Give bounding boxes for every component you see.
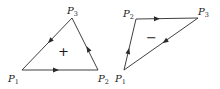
vertex-label-p2: P2	[97, 73, 109, 86]
edge-p2-p3	[136, 18, 198, 19]
arrow-icon	[154, 16, 160, 21]
edge-p2-p3	[72, 18, 98, 70]
arrow-icon	[53, 68, 59, 73]
sign-minus: −	[146, 30, 157, 45]
orientation-diagram: + P1 P2 P3 − P1 P2 P3	[0, 0, 220, 89]
arrow-icon	[85, 45, 92, 53]
vertex-label-p2: P2	[122, 8, 134, 21]
vertex-label-p3: P3	[197, 6, 209, 19]
sign-plus: +	[58, 44, 69, 59]
left-triangle: + P1 P2 P3	[7, 5, 109, 86]
right-triangle: − P1 P2 P3	[114, 6, 209, 86]
vertex-label-p1: P1	[114, 73, 126, 86]
vertex-label-p3: P3	[66, 5, 78, 18]
arrow-icon	[125, 48, 131, 55]
vertex-label-p1: P1	[7, 73, 19, 86]
edge-p3-p1	[124, 18, 198, 70]
